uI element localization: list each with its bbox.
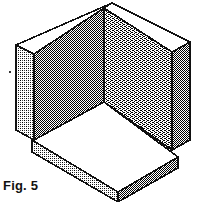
right-wall-end-face xyxy=(172,42,190,150)
left-margin-dot xyxy=(9,71,11,73)
figure-container: Fig. 5 xyxy=(0,0,200,202)
isometric-figure xyxy=(0,0,200,202)
left-wall-end-face xyxy=(16,45,34,140)
figure-caption: Fig. 5 xyxy=(3,179,38,192)
